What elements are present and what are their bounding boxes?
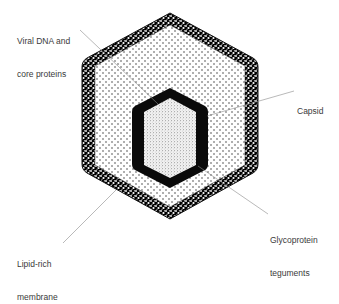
dna-core — [144, 98, 196, 178]
leader-membrane — [63, 190, 116, 243]
label-glycoprotein: Glycoprotein teguments — [270, 213, 318, 290]
label-capsid: Capsid — [297, 84, 323, 128]
label-viral-dna: Viral DNA and core proteins — [17, 14, 70, 91]
label-membrane: Lipid-rich membrane — [17, 237, 58, 304]
